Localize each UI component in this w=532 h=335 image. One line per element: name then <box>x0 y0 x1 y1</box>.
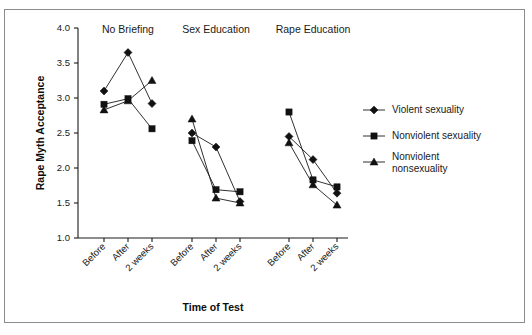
chart-legend: Violent sexualityNonviolent sexualityNon… <box>363 104 481 174</box>
x-tick-label: Before <box>265 241 293 269</box>
marker-diamond <box>100 87 108 95</box>
y-tick-label: 2.5 <box>57 127 70 138</box>
marker-triangle <box>370 158 378 165</box>
panel-header-1: No Briefing <box>102 23 154 35</box>
series-line <box>104 81 152 110</box>
marker-diamond <box>333 189 341 197</box>
marker-square <box>237 189 243 195</box>
y-tick-label: 3.5 <box>57 57 70 68</box>
y-tick-label: 1.0 <box>57 232 70 243</box>
y-tick-label: 3.0 <box>57 92 70 103</box>
y-tick-label: 1.5 <box>57 197 70 208</box>
panel-header-3: Rape Education <box>276 23 351 35</box>
x-tick-label: Before <box>168 241 196 269</box>
marker-diamond <box>188 129 196 137</box>
panel-3 <box>285 109 341 208</box>
x-axis-title: Time of Test <box>183 301 244 313</box>
marker-square <box>213 187 219 193</box>
legend-label: nonsexuality <box>392 163 448 174</box>
x-axis: BeforeAfter2 weeksBeforeAfter2 weeksBefo… <box>78 238 348 273</box>
legend-label: Violent sexuality <box>392 104 464 115</box>
x-tick-label: Before <box>80 241 108 269</box>
figure-root: 4.03.53.02.52.01.51.0 BeforeAfter2 weeks… <box>0 0 532 335</box>
marker-diamond <box>124 49 132 57</box>
marker-square <box>334 184 340 190</box>
line-chart: 4.03.53.02.52.01.51.0 BeforeAfter2 weeks… <box>0 0 532 335</box>
series-line <box>289 143 337 205</box>
panel-header-2: Sex Education <box>182 23 250 35</box>
legend-label: Nonviolent sexuality <box>392 130 481 141</box>
marker-triangle <box>212 194 220 201</box>
panel-1 <box>100 49 156 132</box>
marker-square <box>371 133 377 139</box>
marker-diamond <box>148 100 156 108</box>
series-line <box>289 112 337 187</box>
marker-triangle <box>148 77 156 84</box>
y-tick-label: 2.0 <box>57 162 70 173</box>
y-axis-title: Rape Myth Acceptance <box>34 76 46 191</box>
marker-diamond <box>370 106 378 114</box>
marker-square <box>286 109 292 115</box>
marker-square <box>149 126 155 132</box>
y-tick-label: 4.0 <box>57 22 70 33</box>
data-panels <box>100 49 341 209</box>
marker-triangle <box>188 115 196 122</box>
panel-2 <box>188 115 244 206</box>
marker-square <box>189 138 195 144</box>
legend-label: Nonviolent <box>392 151 439 162</box>
marker-diamond <box>212 143 220 151</box>
y-axis: 4.03.53.02.52.01.51.0 <box>57 22 78 243</box>
marker-triangle <box>285 139 293 146</box>
